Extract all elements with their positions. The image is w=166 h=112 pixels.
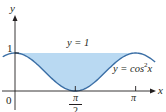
- x-axis-arrow-icon: [150, 89, 156, 94]
- curve-label-prefix: y = cos: [113, 63, 144, 74]
- y-axis-label: y: [10, 3, 15, 14]
- y-axis-arrow-icon: [13, 15, 18, 21]
- plot-canvas: [0, 0, 166, 112]
- x-axis-label: x: [158, 85, 163, 96]
- x-tick-label-pi: π: [131, 93, 136, 103]
- area-between-curves-figure: y 1 0 x π 2 π y = 1 y = cos2x: [0, 0, 166, 112]
- pi-half-numerator: π: [69, 93, 82, 105]
- y-tick-label-1: 1: [7, 43, 13, 54]
- origin-label: 0: [6, 95, 12, 106]
- x-tick-label-pi-half: π 2: [69, 93, 82, 112]
- pi-half-denominator: 2: [69, 105, 82, 112]
- curve-label-suffix: x: [148, 63, 153, 74]
- curve-label: y = cos2x: [113, 62, 152, 74]
- line-label-y-equals-1: y = 1: [67, 38, 89, 49]
- y-axis: [13, 15, 18, 110]
